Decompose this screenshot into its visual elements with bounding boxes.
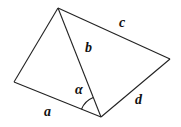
- label-a: a: [44, 104, 51, 119]
- quadrilateral-diagram: c b α a d: [0, 0, 181, 127]
- angle-alpha-arc: [82, 98, 94, 110]
- label-d: d: [135, 92, 143, 107]
- side-a: [14, 82, 101, 117]
- label-c: c: [119, 15, 126, 30]
- label-alpha: α: [75, 82, 83, 97]
- label-b: b: [85, 40, 92, 55]
- side-d: [101, 59, 170, 117]
- side-left-upper: [14, 8, 58, 82]
